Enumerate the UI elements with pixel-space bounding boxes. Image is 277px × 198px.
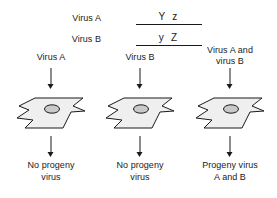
- genotype-row-virus-b-label: Virus B: [72, 34, 101, 45]
- genotype-row-virus-a-alleles: Y z: [137, 11, 201, 22]
- arrow-head: [137, 152, 143, 157]
- experiment-column-virus-a-and-b-title: Virus A andvirus B: [184, 45, 276, 67]
- arrow-shaft: [51, 136, 52, 153]
- host-cell-icon: [102, 90, 178, 136]
- arrow-head: [137, 84, 143, 89]
- genotype-legend: Virus A Y z Virus B y Z: [0, 4, 277, 50]
- down-arrow-icon: [47, 68, 56, 90]
- experiment-column-virus-b-result: No progenyvirus: [90, 160, 190, 183]
- genotype-row-virus-b-alleles: y Z: [137, 32, 201, 43]
- experiment-column-virus-a: Virus A No progenyvirus: [5, 52, 97, 198]
- arrow-head: [48, 84, 54, 89]
- arrow-shaft: [140, 68, 141, 85]
- host-cell: [102, 90, 178, 136]
- host-cell-icon: [192, 90, 268, 136]
- arrow-shaft: [51, 68, 52, 85]
- arrow-shaft: [140, 136, 141, 153]
- arrow-shaft: [230, 68, 231, 85]
- host-cell: [192, 90, 268, 136]
- arrow-head: [227, 84, 233, 89]
- experiment-column-virus-b-title: Virus B: [94, 52, 186, 63]
- experiment-columns: Virus A No progenyvirus Virus B: [0, 52, 277, 198]
- down-arrow-icon: [226, 136, 235, 158]
- experiment-column-virus-a-and-b-result: Progeny virusA and B: [180, 160, 277, 183]
- cell-nucleus: [45, 105, 60, 113]
- cell-nucleus: [224, 105, 239, 113]
- arrow-head: [48, 152, 54, 157]
- genotype-row-virus-b: Virus B y Z: [0, 25, 277, 46]
- cell-nucleus: [134, 105, 149, 113]
- experiment-column-virus-a-and-b: Virus A andvirus B Progeny virusA and B: [184, 52, 276, 198]
- down-arrow-icon: [47, 136, 56, 158]
- host-cell-icon: [13, 90, 89, 136]
- experiment-column-virus-a-result: No progenyvirus: [1, 160, 101, 183]
- down-arrow-icon: [136, 136, 145, 158]
- genotype-row-virus-a: Virus A Y z: [0, 4, 277, 25]
- host-cell: [13, 90, 89, 136]
- genotype-row-virus-a-label: Virus A: [72, 13, 101, 24]
- arrow-shaft: [230, 136, 231, 153]
- arrow-head: [227, 152, 233, 157]
- down-arrow-icon: [226, 68, 235, 90]
- down-arrow-icon: [136, 68, 145, 90]
- experiment-column-virus-a-title: Virus A: [5, 52, 97, 63]
- experiment-column-virus-b: Virus B No progenyvirus: [94, 52, 186, 198]
